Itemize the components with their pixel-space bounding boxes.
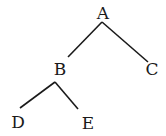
node-a: A	[96, 3, 110, 23]
edge-a-b	[68, 22, 102, 57]
edge-a-c	[102, 22, 148, 62]
node-e: E	[82, 113, 94, 133]
edge-b-d	[20, 82, 55, 108]
node-d: D	[11, 112, 25, 132]
edge-b-e	[55, 82, 78, 109]
node-b: B	[54, 59, 67, 79]
node-c: C	[145, 59, 158, 79]
tree-diagram: A B C D E	[0, 0, 166, 136]
